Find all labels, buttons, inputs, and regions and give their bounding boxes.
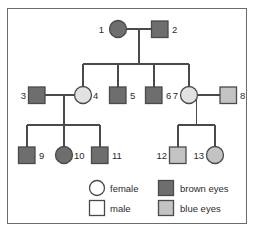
- sibship-bar-gen3-right: [178, 125, 215, 147]
- individual-7[interactable]: 7: [173, 87, 198, 104]
- legend: female male brown eyes blue eyes: [90, 181, 229, 216]
- mating-line-1-2: [127, 29, 151, 64]
- individual-2[interactable]: 2: [152, 21, 178, 38]
- individual-11-number: 11: [112, 150, 122, 161]
- individual-11[interactable]: 11: [92, 147, 122, 164]
- individual-12[interactable]: 12: [156, 147, 186, 164]
- mating-line-7-8: [196, 95, 220, 125]
- legend-brown-eyes-swatch-icon: [159, 181, 174, 196]
- individual-13-number: 13: [193, 150, 204, 161]
- legend-item-male: male: [90, 201, 131, 216]
- individual-13[interactable]: 13: [193, 147, 223, 164]
- individual-10-number: 10: [74, 150, 85, 161]
- individual-7-number: 7: [173, 90, 178, 101]
- individual-4-number: 4: [93, 90, 98, 101]
- individual-10[interactable]: 10: [56, 147, 85, 164]
- individual-5-number: 5: [130, 90, 135, 101]
- individual-3-number: 3: [21, 90, 26, 101]
- individual-8[interactable]: 8: [220, 87, 245, 104]
- individual-8-number: 8: [240, 90, 245, 101]
- individual-12-number: 12: [156, 150, 167, 161]
- legend-female-label: female: [110, 183, 139, 194]
- individual-9-number: 9: [39, 150, 44, 161]
- pedigree-chart-figure: 1 2 3 4 5 6 7 8: [0, 0, 258, 235]
- legend-male-label: male: [110, 203, 131, 214]
- sibship-bar-gen3-left: [27, 125, 100, 147]
- legend-item-female: female: [90, 181, 139, 196]
- mating-line-3-4: [45, 95, 75, 125]
- individual-6-number: 6: [166, 90, 171, 101]
- sibship-bar-gen2: [83, 64, 189, 87]
- individual-1[interactable]: 1: [99, 21, 127, 38]
- legend-female-circle-icon: [90, 181, 105, 196]
- legend-blue-eyes-label: blue eyes: [180, 203, 221, 214]
- individual-5[interactable]: 5: [110, 87, 136, 104]
- individual-9[interactable]: 9: [19, 147, 45, 164]
- legend-item-blue-eyes: blue eyes: [159, 201, 221, 216]
- legend-male-square-icon: [90, 201, 105, 216]
- individual-2-number: 2: [172, 24, 177, 35]
- individual-1-number: 1: [99, 24, 104, 35]
- legend-brown-eyes-label: brown eyes: [180, 183, 229, 194]
- legend-blue-eyes-swatch-icon: [159, 201, 174, 216]
- individual-3[interactable]: 3: [21, 87, 45, 104]
- individual-4[interactable]: 4: [75, 87, 99, 104]
- legend-item-brown-eyes: brown eyes: [159, 181, 229, 196]
- pedigree-diagram-canvas: 1 2 3 4 5 6 7 8: [0, 0, 258, 235]
- individual-6[interactable]: 6: [146, 87, 172, 104]
